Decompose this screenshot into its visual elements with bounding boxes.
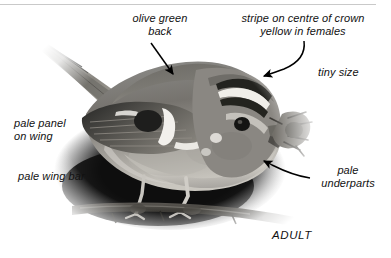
label-pale-panel-on-wing: pale panel on wing xyxy=(14,117,98,142)
label-pale-wing-bar: pale wing bar xyxy=(18,170,118,183)
label-olive-green-back: olive green back xyxy=(108,12,212,37)
label-tiny-size: tiny size xyxy=(318,66,384,79)
figure-canvas: olive green back stripe on centre of cro… xyxy=(0,0,391,258)
label-adult-caption: ADULT xyxy=(272,229,328,242)
label-crown-stripe: stripe on centre of crown yellow in fema… xyxy=(228,12,378,37)
top-divider-rule xyxy=(0,4,376,5)
label-pale-underparts: pale underparts xyxy=(310,164,386,189)
